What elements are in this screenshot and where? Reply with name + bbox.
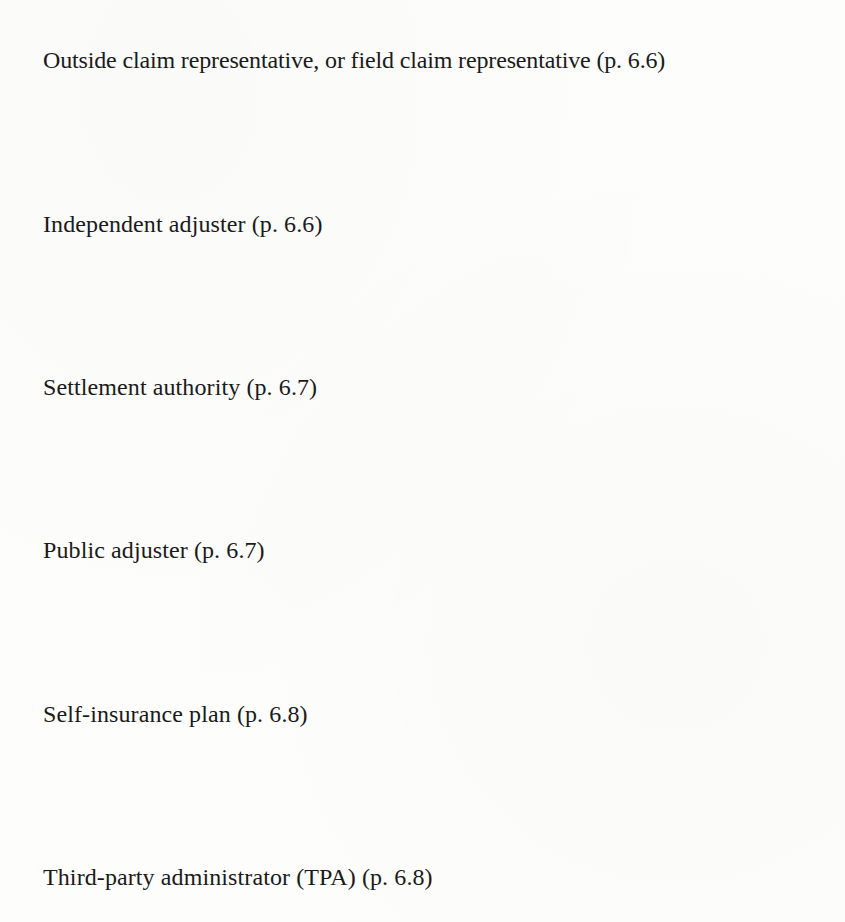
term-third-party-administrator: Third-party administrator (TPA) (p. 6.8) <box>43 863 433 891</box>
document-page: Outside claim representative, or field c… <box>0 0 845 922</box>
term-independent-adjuster: Independent adjuster (p. 6.6) <box>43 210 322 238</box>
term-settlement-authority: Settlement authority (p. 6.7) <box>43 373 317 401</box>
term-public-adjuster: Public adjuster (p. 6.7) <box>43 536 265 564</box>
term-outside-claim-representative: Outside claim representative, or field c… <box>43 46 665 74</box>
term-self-insurance-plan: Self-insurance plan (p. 6.8) <box>43 700 308 728</box>
